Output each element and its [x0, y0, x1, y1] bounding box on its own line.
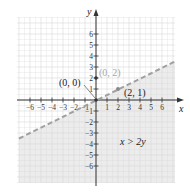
x-tick-label: −5 — [37, 103, 45, 112]
y-axis-arrow-icon — [94, 9, 99, 16]
y-tick-label: 3 — [89, 63, 93, 72]
y-tick-label: −6 — [85, 162, 93, 171]
x-axis-arrow-icon — [177, 98, 184, 103]
x-tick-label: 2 — [116, 103, 120, 112]
inequality-label: x > 2y — [119, 136, 146, 147]
y-tick-label: −2 — [85, 118, 93, 127]
y-tick-label: 6 — [89, 30, 93, 39]
point-2-1 — [116, 87, 120, 91]
y-tick-label: −4 — [85, 140, 93, 149]
y-tick-label: 5 — [89, 41, 93, 50]
point-0-2 — [94, 76, 98, 80]
y-tick-label: −1 — [85, 107, 93, 116]
y-tick-label: −5 — [85, 151, 93, 160]
y-tick-label: 2 — [89, 74, 93, 83]
graph: −6−5−4−3−2−1123456654321−1−2−3−4−5−6 y x… — [0, 0, 190, 194]
x-tick-label: 5 — [149, 103, 153, 112]
label-origin: (0, 0) — [59, 77, 81, 89]
x-tick-label: −6 — [26, 103, 34, 112]
x-tick-label: 4 — [138, 103, 142, 112]
y-tick-label: 4 — [89, 52, 93, 61]
y-axis-label: y — [86, 6, 92, 17]
x-axis-label: x — [178, 103, 184, 114]
label-point-2-1: (2, 1) — [124, 87, 146, 99]
point-origin — [94, 98, 98, 102]
x-tick-label: 6 — [160, 103, 164, 112]
y-tick-label: −3 — [85, 129, 93, 138]
x-tick-label: 1 — [105, 103, 109, 112]
x-tick-label: 3 — [127, 103, 131, 112]
x-tick-label: −3 — [59, 103, 67, 112]
x-tick-label: −4 — [48, 103, 56, 112]
label-point-0-2: (0, 2) — [99, 67, 121, 79]
